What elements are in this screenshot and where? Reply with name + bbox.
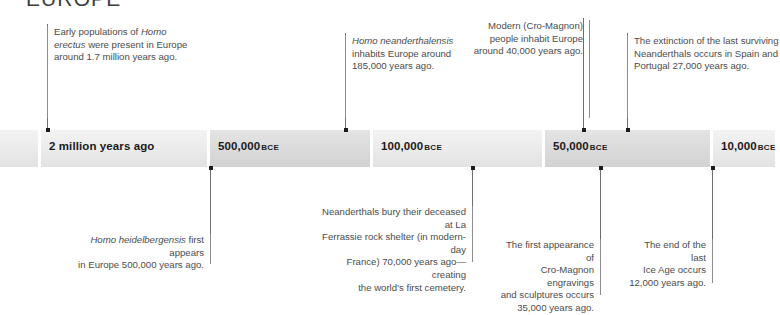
callout-cro-magnon-arrival: Modern (Cro-Magnon)people inhabit Europe… [468, 20, 590, 118]
connector-dot [344, 128, 348, 132]
connector-dot [471, 166, 475, 170]
callout-homo-heidelbergensis: Homo heidelbergensis first appearsin Eur… [72, 234, 211, 264]
connector-dot [626, 128, 630, 132]
timeline-segment-10000-bce: 10,000BCE [713, 130, 775, 167]
timeline-segment-100000-bce: 100,000BCE [373, 130, 542, 167]
connector-line-ice-age-end [712, 166, 713, 239]
timeline-segment-label: 500,000BCE [218, 140, 279, 152]
callout-text: Early populations of Homoerectus were pr… [54, 26, 224, 64]
connector-dot [599, 166, 603, 170]
connector-dot [582, 128, 586, 132]
callout-text: Homo heidelbergensis first appearsin Eur… [72, 234, 204, 272]
timeline-segment-500000-bce: 500,000BCE [210, 130, 370, 167]
timeline-segment-50000-bce: 50,000BCE [545, 130, 710, 167]
callout-la-ferrassie-burial: Neanderthals bury their deceased at LaFe… [322, 206, 473, 262]
timeline-segment-label: 10,000BCE [721, 140, 776, 152]
callout-text: The end of the lastIce Age occurs12,000 … [628, 239, 706, 289]
callout-text: Modern (Cro-Magnon)people inhabit Europe… [468, 20, 583, 58]
timeline-segment-label: 100,000BCE [381, 140, 442, 152]
timeline-segment-label: 2 million years ago [49, 140, 154, 152]
timeline-segment-edge [0, 130, 38, 167]
timeline-segment-2-million: 2 million years ago [41, 130, 207, 167]
page-title: EUROPE [26, 0, 121, 11]
callout-text: The first appearance ofCro-Magnon engrav… [500, 239, 594, 315]
callout-text: Neanderthals bury their deceased at LaFe… [322, 206, 466, 294]
connector-dot [46, 128, 50, 132]
callout-homo-erectus-europe: Early populations of Homoerectus were pr… [47, 26, 224, 118]
connector-line-cro-magnon-art [600, 166, 601, 239]
connector-dot [209, 166, 213, 170]
callout-cro-magnon-art: The first appearance ofCro-Magnon engrav… [500, 239, 601, 295]
callout-text: The extinction of the last survivingNean… [634, 35, 780, 73]
callout-ice-age-end: The end of the lastIce Age occurs12,000 … [628, 239, 713, 283]
connector-line-la-ferrassie-burial [472, 166, 473, 206]
connector-dot [711, 166, 715, 170]
timeline-bar: 2 million years ago 500,000BCE 100,000BC… [0, 130, 775, 167]
callout-neanderthal-extinction: The extinction of the last survivingNean… [627, 35, 780, 118]
timeline-segment-label: 50,000BCE [553, 140, 608, 152]
connector-line-homo-heidelbergensis [210, 166, 211, 238]
